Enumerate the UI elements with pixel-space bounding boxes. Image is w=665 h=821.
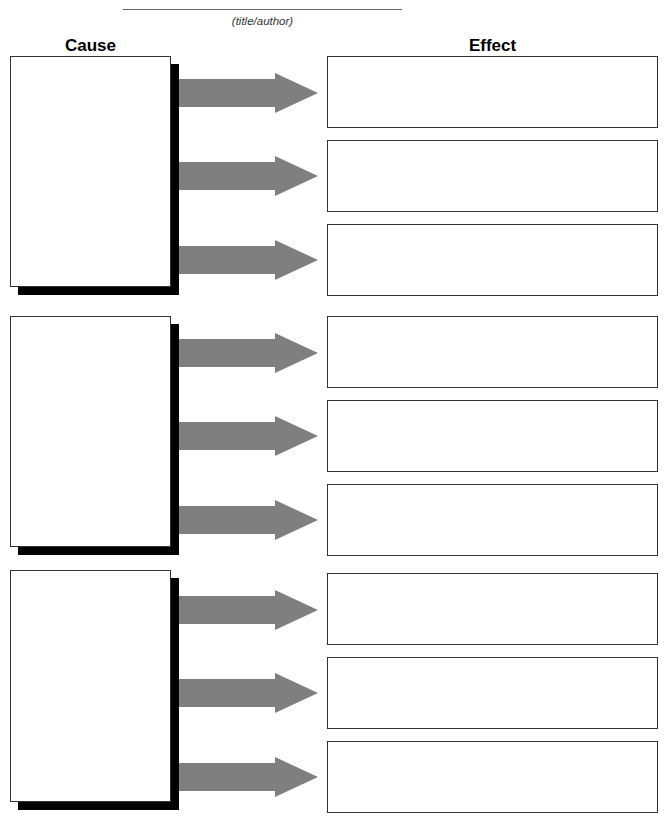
arrow-right-icon <box>179 156 319 196</box>
arrow-right-icon <box>179 500 319 540</box>
arrow-right-icon <box>179 590 319 630</box>
cause-box-2[interactable] <box>10 316 171 547</box>
arrow-right-icon <box>179 673 319 713</box>
arrow-right-icon <box>179 73 319 113</box>
effect-box-1-3[interactable] <box>327 224 658 296</box>
title-author-caption: (title/author) <box>123 15 402 27</box>
effect-box-2-2[interactable] <box>327 400 658 472</box>
cause-column-heading: Cause <box>10 36 171 56</box>
effect-box-3-3[interactable] <box>327 741 658 813</box>
effect-box-2-3[interactable] <box>327 484 658 556</box>
effect-box-3-2[interactable] <box>327 657 658 729</box>
effect-box-3-1[interactable] <box>327 573 658 645</box>
arrow-right-icon <box>179 416 319 456</box>
arrow-right-icon <box>179 757 319 797</box>
cause-box-3[interactable] <box>10 570 171 802</box>
effect-column-heading: Effect <box>327 36 658 56</box>
cause-box-1[interactable] <box>10 56 171 287</box>
arrow-right-icon <box>179 333 319 373</box>
title-author-line[interactable] <box>123 9 402 10</box>
arrow-right-icon <box>179 240 319 280</box>
effect-box-2-1[interactable] <box>327 316 658 388</box>
effect-box-1-1[interactable] <box>327 56 658 128</box>
effect-box-1-2[interactable] <box>327 140 658 212</box>
